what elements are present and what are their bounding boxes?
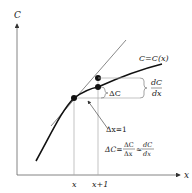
point-at-x [71,95,77,101]
approx-frac-den: Δx [124,150,133,158]
approx-rhs-den: dx [143,150,151,158]
x-axis-label: x [184,170,189,180]
marginal-cost-diagram: C x ΔC dC dx C=C(x) Δx=1 ΔC= ΔC Δx ≈ dC … [0,0,192,193]
derivative-numerator: dC [151,78,162,87]
derivative-denominator: dx [152,89,162,98]
approx-frac-num: ΔC [124,141,134,149]
derivative-brace [140,78,147,98]
delta-c-brace [101,87,108,98]
approx-symbol: ≈ [136,145,142,154]
approx-rhs-num: dC [143,141,152,149]
curve-label: C=C(x) [139,54,169,63]
tick-x: x [72,180,77,189]
tick-x-plus-1: x+1 [92,180,108,189]
delta-x-label: Δx=1 [106,125,127,134]
point-on-curve-x-plus-1 [95,84,101,90]
approx-lhs: ΔC= [104,145,122,154]
delta-c-label: ΔC [109,89,121,98]
y-axis-label: C [14,10,21,20]
